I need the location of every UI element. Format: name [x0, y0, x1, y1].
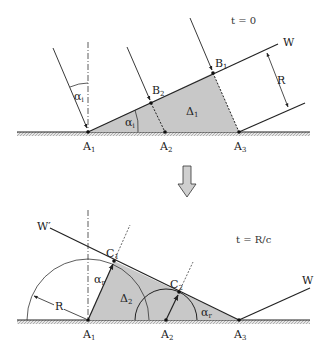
point-label-a3-bottom: A3: [233, 328, 246, 342]
point-label-b2: B2: [152, 84, 165, 98]
wavefront-label-w-prime: W′: [37, 220, 51, 233]
time-label-top: t = 0: [231, 15, 256, 26]
bottom-panel: t = R/c W′ W R αr αr Δ2 A1 A2 A3 C1 C2: [17, 210, 314, 342]
top-panel: t = 0 W R αi αi Δ1 A1 A2 A3 B1 B2: [17, 15, 310, 154]
ground-surface-bottom: [17, 320, 310, 324]
time-label-bottom: t = R/c: [236, 234, 272, 245]
point-label-c1: C1: [106, 247, 119, 261]
point-label-a2-bottom: A2: [160, 328, 173, 342]
point-label-b1: B1: [215, 57, 228, 71]
point-label-c2: C2: [170, 278, 183, 292]
wavefront-parallel-top: [239, 103, 305, 132]
point-label-a1-top: A1: [82, 140, 95, 154]
wavefront-label-w-bottom: W: [302, 274, 314, 287]
wavefront-w-bottom: [239, 288, 310, 320]
point-label-a2-top: A2: [159, 140, 172, 154]
dimension-label-bottom: R: [55, 300, 64, 313]
dimension-label-top: R: [277, 74, 286, 87]
point-label-a3-top: A3: [233, 140, 246, 154]
incident-ray-2: [127, 47, 150, 100]
wavefront-label-top: W: [283, 36, 295, 49]
huygens-reflection-diagram: t = 0 W R αi αi Δ1 A1 A2 A3 B1 B2: [0, 0, 326, 356]
angle-label-reflected-1: αr: [94, 273, 105, 287]
angle-arc-incident: [70, 83, 88, 87]
incident-ray-1: [53, 48, 87, 128]
incident-ray-3: [190, 18, 212, 70]
angle-label-incident: αi: [74, 90, 84, 104]
area-delta1: [88, 73, 239, 132]
point-label-a1-bottom: A1: [82, 328, 95, 342]
transition-arrow-icon: [178, 166, 196, 197]
